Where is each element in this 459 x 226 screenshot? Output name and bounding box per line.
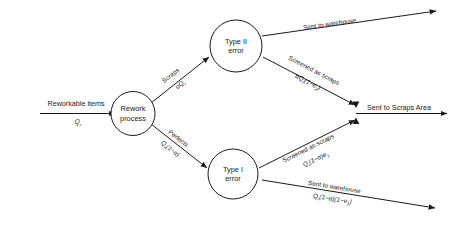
node-type-ii-error[interactable]: Type II error: [210, 20, 262, 72]
node-type-i-error[interactable]: Type I error: [208, 149, 258, 199]
edge-label-type-ii-warehouse: Sent to warehouse: [303, 16, 357, 31]
edge-label-type-i-screened-scraps: Screened as scraps Qr(1−α)e1: [281, 132, 341, 177]
scraps-formula: αQr: [174, 78, 188, 92]
edge-label-scraps-area-output: Sent to Scraps Area: [367, 103, 431, 112]
edge-label-scraps-to-type-ii: Scraps αQr: [160, 66, 189, 96]
rework-process-label-line2: process: [120, 114, 146, 123]
input-formula-sub: r: [80, 122, 82, 127]
edge-label-type-i-warehouse: Sent to warehouse Qr(1−α)(1−e1): [305, 179, 361, 208]
edge-perfects-to-type-i-line: [151, 124, 207, 168]
input-label: Reworkable items: [47, 99, 105, 108]
node-rework-process[interactable]: Rework process: [111, 92, 155, 136]
type-ii-warehouse-label: Sent to warehouse: [303, 16, 357, 31]
scraps-area-output-label: Sent to Scraps Area: [367, 103, 431, 112]
input-formula: Qr: [75, 118, 82, 127]
flow-diagram-canvas: Rework process Type II error Type I erro…: [0, 0, 459, 226]
type-i-warehouse-formula-tail: (1−α)(1−e: [319, 193, 349, 205]
type-i-scraps-formula-sub2: 1: [326, 153, 331, 159]
type-ii-error-label-line2: error: [228, 46, 244, 55]
rework-process-diagram: Rework process Type II error Type I erro…: [0, 0, 459, 226]
type-i-error-label-line2: error: [225, 174, 241, 183]
type-ii-error-label-line1: Type II: [225, 37, 247, 46]
type-i-error-label-line1: Type I: [223, 165, 243, 174]
type-i-scraps-formula-tail: (1−α)e: [307, 150, 328, 166]
rework-process-label-line1: Rework: [120, 104, 145, 113]
